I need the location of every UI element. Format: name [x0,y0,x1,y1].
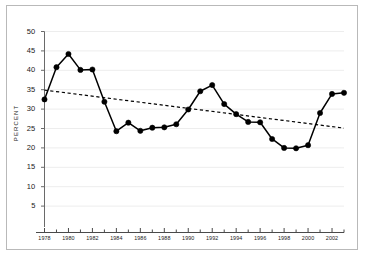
data-line [45,54,345,148]
gridlines [45,32,345,207]
axis-lines [36,32,344,233]
chart-figure: PERCENT 5101520253035404550 197819801982… [0,0,368,261]
axis-ticks [41,32,344,233]
plot-area [0,0,368,261]
